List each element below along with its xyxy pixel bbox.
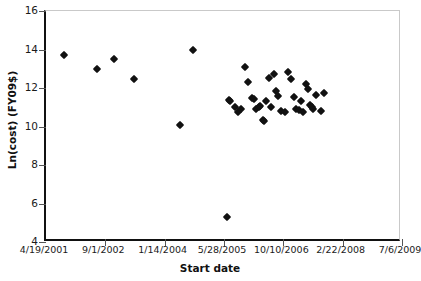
data-point bbox=[320, 89, 328, 97]
x-axis-tick-label: 7/6/2009 bbox=[379, 244, 421, 256]
data-point bbox=[286, 75, 294, 83]
x-axis-tick-labels: 4/19/20019/1/20021/14/20045/28/200510/10… bbox=[0, 244, 420, 260]
data-point bbox=[309, 105, 317, 113]
data-point bbox=[189, 45, 197, 53]
y-axis-tick bbox=[39, 11, 46, 12]
x-axis-tick-label: 4/19/2001 bbox=[20, 244, 69, 256]
data-point bbox=[266, 103, 274, 111]
x-axis-tick-label: 2/22/2008 bbox=[316, 244, 365, 256]
data-point bbox=[109, 55, 117, 63]
x-axis-tick-label: 9/1/2002 bbox=[82, 244, 125, 256]
y-axis-tick bbox=[39, 204, 46, 205]
y-axis-tick-label: 6 bbox=[0, 198, 38, 208]
y-axis-tick-label: 14 bbox=[0, 44, 38, 54]
data-point bbox=[241, 63, 249, 71]
y-axis-tick-label: 16 bbox=[0, 5, 38, 15]
data-point bbox=[299, 108, 307, 116]
data-point bbox=[60, 51, 68, 59]
x-axis-tick-label: 10/10/2006 bbox=[254, 244, 309, 256]
y-axis-tick bbox=[39, 165, 46, 166]
x-axis-tick-label: 5/28/2005 bbox=[198, 244, 247, 256]
data-point bbox=[130, 75, 138, 83]
y-axis-tick bbox=[39, 127, 46, 128]
data-point bbox=[304, 85, 312, 93]
plot-area bbox=[44, 10, 400, 241]
x-axis-tick-label: 1/14/2004 bbox=[138, 244, 187, 256]
y-axis-title: Ln(cost) (FY09$) bbox=[6, 55, 18, 185]
y-axis-tick bbox=[39, 88, 46, 89]
data-point bbox=[311, 90, 319, 98]
y-axis-tick bbox=[39, 242, 46, 243]
x-axis-title: Start date bbox=[0, 262, 420, 274]
data-point bbox=[316, 107, 324, 115]
data-point bbox=[297, 96, 305, 104]
y-axis-tick bbox=[39, 50, 46, 51]
data-point bbox=[244, 78, 252, 86]
data-point bbox=[175, 120, 183, 128]
data-point bbox=[222, 213, 230, 221]
data-point bbox=[92, 65, 100, 73]
